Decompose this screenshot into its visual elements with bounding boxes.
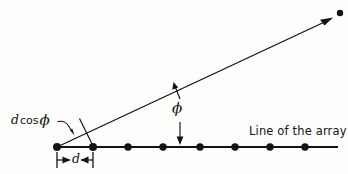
- array-element-dot: [89, 143, 97, 151]
- phi-lower-arrowhead: [177, 137, 184, 146]
- array-element-dot: [196, 143, 203, 150]
- label-line-of-the-array: Line of the array: [249, 126, 347, 138]
- dimension-arrowhead-left: [63, 157, 71, 164]
- dcos-leader-line: [58, 121, 73, 132]
- array-element-dot: [231, 143, 238, 150]
- array-element-dot: [266, 143, 273, 150]
- dcos-leader-arrowhead: [70, 129, 75, 136]
- ray-arrowhead: [320, 18, 333, 26]
- array-element-dot: [159, 143, 166, 150]
- figure-canvas: [0, 0, 348, 174]
- label-angle-phi: ϕ: [172, 101, 182, 116]
- dimension-arrowhead-right: [81, 157, 89, 164]
- phi-upper-arrowhead: [172, 82, 178, 90]
- label-path-difference-phi: ϕ: [40, 111, 50, 129]
- array-element-dot: [124, 143, 131, 150]
- projection-perpendicular: [80, 119, 94, 147]
- label-spacing-d: d: [72, 153, 80, 166]
- array-element-dot: [301, 143, 308, 150]
- array-geometry-figure: dcosϕ ϕ d Line of the array: [0, 0, 348, 174]
- source-point-dot: [337, 10, 343, 16]
- label-path-difference: dcosϕ: [11, 112, 50, 127]
- label-path-difference-d: d: [11, 112, 19, 127]
- label-path-difference-cos: cos: [19, 114, 40, 127]
